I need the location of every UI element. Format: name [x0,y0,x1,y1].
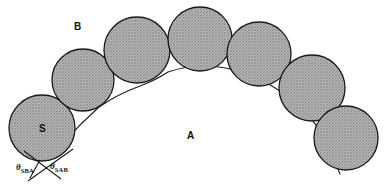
particle-circle-3 [104,17,170,83]
particle-label-s: S [39,124,46,134]
particle-interface-figure: B A S θSBA θSAB [0,0,385,187]
angle-label-theta-sba: θSBA [16,163,34,172]
particle-circle-4 [168,7,232,71]
figure-canvas [0,0,385,187]
theta-subscript-sba: SBA [21,167,34,174]
theta-symbol-sab: θ [50,161,55,171]
particle-circle-7 [314,106,378,170]
theta-symbol-sba: θ [16,162,21,172]
angle-label-theta-sab: θSAB [50,162,68,171]
phase-label-a: A [187,131,195,141]
particle-group [9,7,378,170]
theta-subscript-sab: SAB [55,166,68,173]
phase-label-b: B [74,22,82,32]
